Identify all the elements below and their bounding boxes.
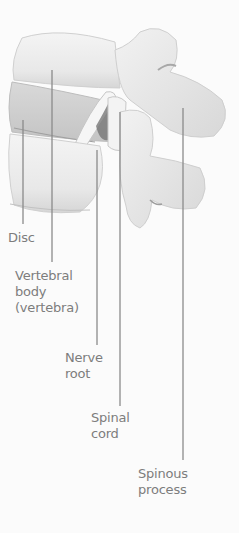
label-spinous-process-line-2: process [138, 482, 188, 498]
label-disc: Disc [8, 230, 35, 246]
label-vertebral-body: Vertebral body (vertebra) [15, 268, 79, 316]
upper-vertebral-body [13, 33, 120, 88]
label-vertebral-body-line-1: Vertebral [15, 268, 79, 284]
label-nerve-root-line-1: Nerve [65, 350, 103, 366]
label-spinal-cord-line-2: cord [91, 426, 130, 442]
label-nerve-root-line-2: root [65, 366, 103, 382]
spine-illustration [0, 0, 239, 533]
label-vertebral-body-line-3: (vertebra) [15, 300, 79, 316]
label-spinal-cord-line-1: Spinal [91, 410, 130, 426]
label-spinal-cord: Spinal cord [91, 410, 130, 442]
label-spinous-process: Spinous process [138, 466, 188, 498]
label-spinous-process-line-1: Spinous [138, 466, 188, 482]
label-disc-line-1: Disc [8, 230, 35, 246]
label-nerve-root: Nerve root [65, 350, 103, 382]
label-vertebral-body-line-2: body [15, 284, 79, 300]
